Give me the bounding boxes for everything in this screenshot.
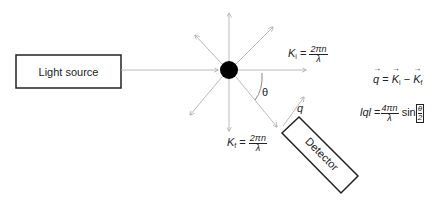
ray-up-left xyxy=(195,35,222,64)
ray-down-right xyxy=(236,77,277,127)
ray-up-right xyxy=(236,27,273,64)
particle xyxy=(220,61,238,79)
magnitude-equation: lql =4πnλ sinθ2 xyxy=(360,104,424,123)
sin-argument: θ2 xyxy=(416,104,424,123)
vector-equation: q = Ki − Kf xyxy=(373,73,422,86)
ki-equals: = xyxy=(300,47,306,59)
sin-func: sin xyxy=(402,106,416,118)
light-source-label: Light source xyxy=(16,55,121,88)
ki-subscript: i xyxy=(295,53,297,60)
mag-fraction: 4πnλ xyxy=(381,104,399,123)
kf-denominator: λ xyxy=(255,144,261,153)
ray-down-left xyxy=(190,77,222,115)
ki-denominator: λ xyxy=(315,55,321,64)
kf-subscript: f xyxy=(234,142,236,149)
kf-vec: K xyxy=(413,73,420,85)
q-label: q xyxy=(297,102,303,114)
kf-equals: = xyxy=(239,136,245,148)
kf-fraction: 2πnλ xyxy=(249,134,267,153)
theta-label: θ xyxy=(262,86,268,98)
scattered-wavevector-label: Kf = 2πnλ xyxy=(227,134,267,153)
ki-fraction: 2πnλ xyxy=(309,45,327,64)
q-magnitude: lql xyxy=(360,106,371,118)
incident-wavevector-label: Ki = 2πnλ xyxy=(288,45,328,64)
scattered-rays xyxy=(190,13,306,131)
diagram-canvas xyxy=(0,0,442,204)
arg-denominator: 2 xyxy=(418,114,422,122)
ki-vec-sub: i xyxy=(399,79,401,86)
q-vec: q xyxy=(373,73,379,85)
ki-vec: K xyxy=(392,73,399,85)
vec-eq-equals: = xyxy=(382,73,388,85)
vec-eq-minus: − xyxy=(404,73,410,85)
mag-denominator: λ xyxy=(386,114,392,123)
